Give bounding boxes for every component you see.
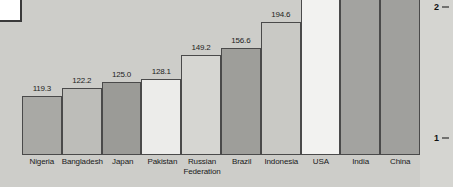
category-label-japan: Japan <box>103 155 143 183</box>
bar-chart-figure: 119.3122.2125.0128.1149.2156.6194.6 Nige… <box>0 0 453 187</box>
bar-value-label: 156.6 <box>231 36 250 45</box>
inset-box-corner <box>0 0 22 22</box>
y-tick-label-2: 2 <box>434 2 439 12</box>
category-label-bangladesh: Bangladesh <box>62 155 103 183</box>
bar-value-label: 125.0 <box>112 70 131 79</box>
plot-area: 119.3122.2125.0128.1149.2156.6194.6 <box>22 0 420 155</box>
bar-slot <box>380 0 420 155</box>
y-tick-mark-2 <box>442 7 449 8</box>
bar-value-label: 194.6 <box>271 10 290 19</box>
bar-slot <box>340 0 380 155</box>
x-axis-category-labels: NigeriaBangladeshJapanPakistanRussian Fe… <box>22 155 420 183</box>
bar-slot: 149.2 <box>181 0 221 155</box>
bar-indonesia[interactable]: 194.6 <box>261 22 301 155</box>
category-label-india: India <box>341 155 381 183</box>
category-label-usa: USA <box>301 155 341 183</box>
category-label-nigeria: Nigeria <box>22 155 62 183</box>
bar-slot: 156.6 <box>221 0 261 155</box>
y-tick-mark-1 <box>442 138 449 139</box>
bar-slot: 125.0 <box>102 0 142 155</box>
bar-value-label: 119.3 <box>33 84 51 93</box>
bar-value-label: 128.1 <box>152 67 171 76</box>
bar-russian-federation[interactable]: 149.2 <box>181 55 221 155</box>
bar-slot: 194.6 <box>261 0 301 155</box>
category-label-brazil: Brazil <box>222 155 262 183</box>
bar-bangladesh[interactable]: 122.2 <box>62 88 102 155</box>
bar-slot: 119.3 <box>22 0 62 155</box>
bar-slot: 122.2 <box>62 0 102 155</box>
bar-china[interactable] <box>380 0 420 155</box>
bar-japan[interactable]: 125.0 <box>102 82 142 155</box>
bar-slot <box>301 0 341 155</box>
category-label-russian-federation: Russian Federation <box>182 155 222 183</box>
bar-pakistan[interactable]: 128.1 <box>141 79 181 155</box>
bar-india[interactable] <box>340 0 380 155</box>
bar-brazil[interactable]: 156.6 <box>221 48 261 155</box>
bar-usa[interactable] <box>301 0 341 155</box>
bar-value-label: 122.2 <box>72 76 91 85</box>
bar-slot: 128.1 <box>141 0 181 155</box>
y-tick-label-1: 1 <box>434 133 439 143</box>
category-label-china: China <box>380 155 420 183</box>
bar-series: 119.3122.2125.0128.1149.2156.6194.6 <box>22 0 420 155</box>
y-axis: 2 1 <box>420 0 453 187</box>
category-label-pakistan: Pakistan <box>143 155 183 183</box>
bar-nigeria[interactable]: 119.3 <box>22 96 62 155</box>
category-label-indonesia: Indonesia <box>261 155 301 183</box>
bar-value-label: 149.2 <box>192 43 211 52</box>
